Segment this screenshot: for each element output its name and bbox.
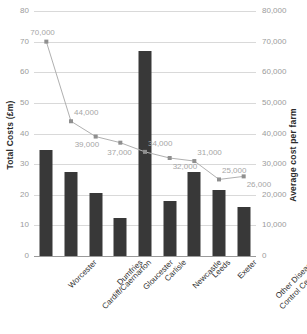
y-tick-left: 0: [25, 252, 29, 260]
bar: [212, 190, 225, 256]
x-category-label: Other DiseaseControl Centres: [270, 258, 307, 311]
y-tick-left: 40: [20, 130, 29, 138]
x-category-label: Exeter: [236, 258, 259, 281]
y-tick-left: 70: [20, 38, 29, 46]
y-tick-right: 70,000: [262, 38, 286, 46]
y-tick-left: 60: [20, 68, 29, 76]
line-point-label: 26,000: [247, 181, 271, 189]
y-tick-right: 40,000: [262, 130, 286, 138]
bar-slot: [83, 11, 108, 256]
y-tick-right: 10,000: [262, 221, 286, 229]
bar-slot: [34, 11, 59, 256]
x-axis-category-labels: WorcesterCardiff/CaernarfonDumfriesGlouc…: [34, 258, 256, 334]
line-point-label: 34,000: [148, 140, 172, 148]
y-tick-left: 30: [20, 160, 29, 168]
bar: [64, 172, 77, 256]
bar-slot: [157, 11, 182, 256]
line-point-label: 25,000: [222, 167, 246, 175]
bar-slot: [207, 11, 232, 256]
line-point-label: 31,000: [197, 149, 221, 157]
y-tick-left: 80: [20, 7, 29, 15]
y-axis-left-title: Total Costs (£m): [5, 87, 15, 183]
bar: [114, 218, 127, 256]
bar-slot: [59, 11, 84, 256]
y-tick-right: 0: [262, 252, 266, 260]
bar-slot: [133, 11, 158, 256]
bar-series: [34, 11, 256, 256]
y-tick-left: 20: [20, 191, 29, 199]
line-point-label: 44,000: [74, 109, 98, 117]
y-tick-right: 20,000: [262, 191, 286, 199]
y-axis-right-title: Average cost per farm: [288, 100, 298, 210]
y-tick-right: 50,000: [262, 99, 286, 107]
line-point-label: 32,000: [173, 163, 197, 171]
bar-slot: [231, 11, 256, 256]
x-category-label: Worcester: [67, 258, 99, 290]
y-tick-right: 30,000: [262, 160, 286, 168]
y-tick-left: 10: [20, 221, 29, 229]
bar: [188, 172, 201, 256]
chart-container: Total Costs (£m) Average cost per farm 0…: [0, 0, 307, 334]
bar-slot: [108, 11, 133, 256]
bar-slot: [182, 11, 207, 256]
bar: [163, 201, 176, 256]
y-tick-left: 50: [20, 99, 29, 107]
line-point-label: 39,000: [75, 141, 99, 149]
plot-area: 01020304050607080 010,00020,00030,00040,…: [34, 11, 256, 256]
bar: [138, 51, 151, 256]
bar: [237, 207, 250, 256]
y-tick-right: 60,000: [262, 68, 286, 76]
bar: [40, 150, 53, 256]
y-tick-right: 80,000: [262, 7, 286, 15]
line-point-label: 70,000: [30, 29, 54, 37]
line-point-label: 37,000: [107, 149, 131, 157]
axis-baseline: [34, 256, 256, 257]
bar: [89, 193, 102, 256]
